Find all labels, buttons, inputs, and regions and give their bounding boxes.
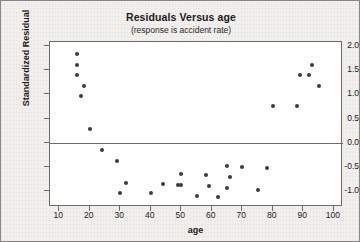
scatter-point [271,104,275,108]
x-tick-label: 70 [226,210,256,220]
scatter-point [179,172,183,176]
scatter-point [298,73,302,77]
x-tick-label: 50 [165,210,195,220]
x-tick-label: 60 [196,210,226,220]
x-tick-mark [89,206,90,211]
x-tick-mark [150,206,151,211]
x-tick-mark [180,206,181,211]
scatter-point [88,127,92,131]
scatter-point [265,166,269,170]
scatter-point [317,84,321,88]
scatter-points-layer [50,42,341,205]
residual-plot-figure: Residuals Versus age (response is accide… [0,0,360,242]
scatter-point [118,191,122,195]
scatter-point [149,191,153,195]
x-tick-label: 100 [318,210,348,220]
scatter-point [75,52,79,56]
scatter-point [179,183,183,187]
scatter-point [240,165,244,169]
x-tick-label: 30 [104,210,134,220]
x-tick-mark [58,206,59,211]
x-tick-label: 20 [74,210,104,220]
x-tick-label: 80 [257,210,287,220]
x-tick-mark [241,206,242,211]
scatter-point [228,175,232,179]
scatter-point [307,73,311,77]
scatter-point [100,148,104,152]
scatter-point [225,186,229,190]
x-tick-label: 90 [287,210,317,220]
x-tick-label: 40 [135,210,165,220]
scatter-point [204,173,208,177]
scatter-point [207,184,211,188]
scatter-point [216,195,220,199]
scatter-point [115,159,119,163]
scatter-point [161,182,165,186]
scatter-point [124,181,128,185]
scatter-point [79,94,83,98]
scatter-point [75,73,79,77]
x-tick-mark [272,206,273,211]
scatter-point [310,63,314,67]
scatter-point [195,194,199,198]
scatter-point [75,63,79,67]
scatter-point [256,188,260,192]
x-tick-mark [302,206,303,211]
scatter-point [82,84,86,88]
plot-area [49,41,342,206]
x-tick-mark [211,206,212,211]
scatter-point [225,164,229,168]
x-tick-mark [119,206,120,211]
scatter-point [295,104,299,108]
x-tick-mark [333,206,334,211]
x-tick-label: 10 [43,210,73,220]
